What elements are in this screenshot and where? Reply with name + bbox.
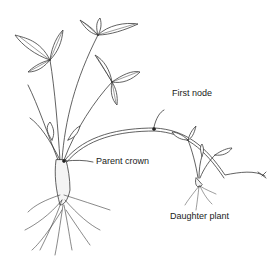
first-node-marker [153, 128, 156, 131]
parent-crown-leader [66, 160, 93, 162]
runner-stolon [65, 128, 265, 176]
parent-crown-marker [63, 160, 66, 163]
first-node-label: First node [172, 89, 212, 98]
parent-roots [25, 195, 110, 255]
parent-leaves [15, 18, 140, 140]
daughter-plant [172, 126, 232, 210]
parent-crown-shape [55, 160, 70, 205]
daughter-plant-label: Daughter plant [170, 212, 229, 221]
strawberry-plant-illustration [0, 0, 279, 261]
plant-diagram: First node Parent crown Daughter plant [0, 0, 279, 261]
first-node-leader [154, 110, 164, 127]
leaf-veins [20, 21, 138, 103]
runner-tip [258, 172, 266, 178]
parent-crown-label: Parent crown [96, 157, 149, 166]
